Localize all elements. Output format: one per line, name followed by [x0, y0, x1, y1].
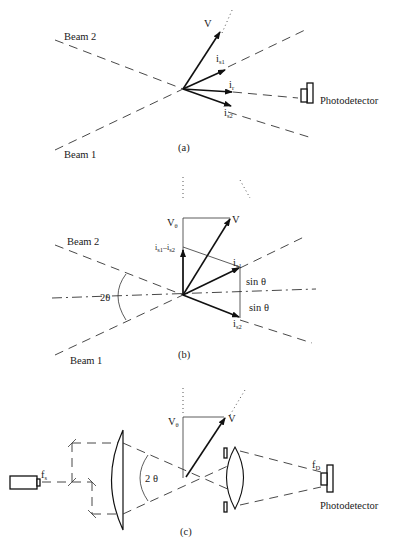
is2-vector: [183, 295, 239, 317]
vtheta-label: Vθ: [167, 217, 178, 229]
is2-label: is2: [224, 107, 233, 119]
caption-c: (c): [180, 526, 192, 538]
beam-lower-converging: [123, 465, 230, 514]
beam1-label: Beam 1: [64, 149, 96, 160]
beam2-label: Beam 2: [67, 236, 99, 247]
vtheta-label: Vθ: [168, 416, 179, 428]
laser-icon: [10, 476, 40, 489]
lda-optics-figure: Beam 2 Beam 1 V is1 ir is2 Photodetector…: [0, 0, 393, 548]
scattered-beam-lower: [228, 112, 312, 138]
angle-arc: [118, 274, 126, 320]
beam2-label: Beam 2: [64, 31, 96, 42]
velocity-vector: [186, 418, 225, 477]
beam1-line: [55, 89, 183, 150]
velocity-label: V: [232, 214, 240, 225]
detector-frequency-label: fD: [312, 459, 321, 471]
velocity-extension: [222, 8, 233, 33]
laser-frequency-label: fs: [41, 469, 48, 481]
difference-label: is1–is2: [155, 243, 175, 253]
caption-b: (b): [178, 349, 191, 361]
focusing-lens: [112, 430, 124, 530]
angle-label: 2 θ: [145, 473, 158, 484]
velocity-extension: [230, 390, 245, 415]
photodetector-icon: [301, 83, 313, 103]
is1-label: is1: [216, 53, 225, 65]
collected-beam-upper: [240, 451, 321, 472]
detector-path: [233, 92, 298, 98]
photodetector-label: Photodetector: [320, 95, 379, 106]
caption-a: (a): [178, 142, 190, 154]
velocity-label: V: [228, 413, 236, 424]
panel-c: fs Vθ V 2 θ fD Photodetector (c): [10, 388, 379, 538]
scattered-beam-upper: [228, 30, 305, 67]
photodetector-icon: [321, 465, 333, 492]
velocity-extension: [240, 180, 250, 198]
beam1-label: Beam 1: [70, 355, 102, 366]
collecting-lens: [227, 447, 244, 509]
photodetector-label: Photodetector: [320, 500, 379, 511]
scattered-beam-upper: [240, 236, 306, 268]
beam2-line: [55, 40, 183, 89]
sin-theta-bottom-label: sin θ: [249, 302, 269, 313]
panel-b: Beam 2 Beam 1 Vθ V is1–is2 is1 is2 sin θ…: [52, 177, 316, 366]
beam-upper-converging: [123, 443, 230, 490]
velocity-label: V: [204, 18, 212, 29]
sin-theta-top-label: sin θ: [246, 276, 266, 287]
scattered-beam-lower: [240, 320, 312, 343]
is1-label: is1: [233, 257, 242, 269]
collected-beam-lower: [240, 487, 321, 505]
ir-label: ir: [229, 79, 235, 91]
aperture-upper: [224, 448, 227, 458]
panel-a: Beam 2 Beam 1 V is1 ir is2 Photodetector…: [55, 8, 379, 160]
figure-canvas: Beam 2 Beam 1 V is1 ir is2 Photodetector…: [0, 0, 393, 548]
angle-label: 2θ: [100, 292, 110, 303]
aperture-lower: [224, 502, 227, 512]
